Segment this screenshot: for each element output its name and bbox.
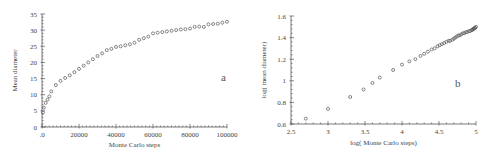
panel-label: a	[221, 71, 226, 83]
data-point	[349, 96, 352, 99]
data-point	[54, 84, 57, 87]
data-point	[48, 95, 51, 98]
data-point	[362, 88, 365, 91]
x-tick-label: 80000	[181, 131, 199, 139]
data-point	[44, 101, 47, 104]
y-tick-label: 20	[30, 59, 38, 67]
data-point	[115, 45, 118, 48]
y-tick-label: 15	[30, 75, 38, 83]
data-point	[414, 58, 417, 61]
x-tick-label: 4.5	[435, 128, 444, 136]
y-axis-title: log( mean diameter)	[260, 41, 268, 98]
x-tick-label: 60000	[144, 131, 162, 139]
data-point	[430, 48, 433, 51]
data-point	[161, 31, 164, 34]
figure: .020000400006000080000100000051015202530…	[0, 0, 494, 154]
panel-label: b	[455, 77, 461, 89]
y-tick-label: 1.2	[277, 56, 286, 64]
data-point	[212, 23, 215, 26]
data-point	[304, 117, 307, 120]
y-tick-label: 0.8	[277, 99, 286, 107]
chart-a: .020000400006000080000100000051015202530…	[11, 11, 238, 150]
data-point	[110, 47, 113, 50]
data-point	[216, 22, 219, 25]
data-point	[68, 74, 71, 77]
y-tick-label: 1.6	[277, 13, 286, 21]
data-point	[64, 76, 67, 79]
data-point	[193, 25, 196, 28]
data-point	[124, 44, 127, 47]
y-tick-label: 5	[34, 107, 38, 115]
x-tick-label: 4	[400, 128, 404, 136]
x-tick-label: 40000	[107, 131, 125, 139]
data-point	[73, 71, 76, 74]
y-tick-label: 10	[30, 91, 38, 99]
data-point	[152, 32, 155, 35]
data-point	[408, 60, 411, 63]
data-point	[50, 90, 53, 93]
data-point	[59, 79, 62, 82]
data-point	[179, 28, 182, 31]
data-point	[78, 67, 81, 70]
data-point	[221, 21, 224, 24]
data-point	[423, 52, 426, 55]
y-tick-label: 1	[283, 77, 287, 85]
data-point	[198, 25, 201, 28]
chart-b: 2.533.544.550.60.811.21.41.6log( Monte C…	[260, 13, 478, 148]
data-point	[138, 38, 141, 41]
data-point	[170, 29, 173, 32]
data-point	[426, 50, 429, 53]
data-point	[202, 25, 205, 28]
data-point	[433, 47, 436, 50]
data-point	[226, 20, 229, 23]
data-point	[128, 43, 131, 46]
x-tick-label: .0	[39, 131, 45, 139]
data-point	[133, 41, 136, 44]
x-tick-label: 20000	[70, 131, 88, 139]
data-point	[419, 54, 422, 57]
data-point	[82, 64, 85, 67]
x-axis-title: Monte Carlo steps	[109, 141, 161, 149]
data-point	[165, 30, 168, 33]
y-tick-label: 35	[30, 11, 38, 19]
data-point	[184, 28, 187, 31]
x-tick-label: 100000	[217, 131, 239, 139]
x-tick-label: 3.5	[361, 128, 370, 136]
data-point	[87, 61, 90, 64]
x-tick-label: 3	[326, 128, 330, 136]
y-tick-label: 1.4	[277, 34, 286, 42]
y-tick-label: 25	[30, 43, 38, 51]
y-tick-label: 0	[34, 124, 38, 132]
x-axis-title: log( Monte Carlo steps)	[350, 139, 417, 147]
data-point	[207, 23, 210, 26]
data-point	[142, 37, 145, 40]
data-point	[119, 45, 122, 48]
data-point	[147, 35, 150, 38]
data-point	[378, 76, 381, 79]
data-point	[156, 31, 159, 34]
data-point	[91, 58, 94, 61]
data-point	[101, 52, 104, 55]
data-point	[189, 27, 192, 30]
data-point	[105, 49, 108, 52]
data-point	[392, 69, 395, 72]
y-tick-label: 30	[30, 27, 38, 35]
x-tick-label: 5	[474, 128, 478, 136]
data-point	[327, 107, 330, 110]
data-point	[175, 29, 178, 32]
x-tick-label: 2.5	[287, 128, 296, 136]
data-point	[46, 98, 49, 101]
y-axis-title: Mean diameter	[11, 49, 19, 92]
data-point	[401, 63, 404, 66]
data-point	[371, 81, 374, 84]
y-tick-label: 0.6	[277, 121, 286, 129]
data-point	[96, 54, 99, 57]
